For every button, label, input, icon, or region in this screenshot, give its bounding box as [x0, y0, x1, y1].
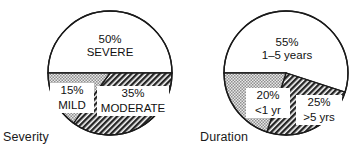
severity-pie: [48, 11, 172, 135]
pie-chart-figure: 50% SEVERE 15% MILD 35% MODERATE 55% 1–5…: [0, 0, 363, 164]
slice-severe[interactable]: [48, 11, 172, 73]
severity-chart-caption: Severity: [3, 130, 49, 144]
pie-charts-svg: [0, 0, 363, 164]
duration-pie: [224, 11, 348, 135]
duration-chart-caption: Duration: [200, 130, 248, 144]
